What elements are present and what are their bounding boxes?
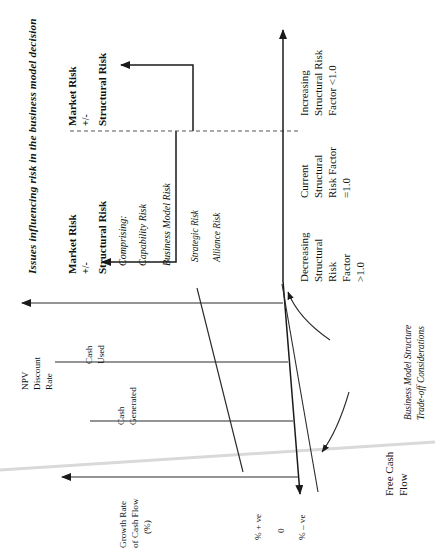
current-line3: Risk Factor xyxy=(326,147,338,198)
tradeoff-arrow-up xyxy=(288,292,330,340)
comprising-label: Comprising: xyxy=(117,215,128,266)
decreasing-line3: Risk xyxy=(326,262,338,282)
tradeoff-annotation-line1: Business Model Structure xyxy=(403,325,413,420)
right-group-structural-risk: Structural Risk xyxy=(96,53,108,126)
increasing-line1: Increasing xyxy=(298,70,310,116)
oblique-line-right xyxy=(282,284,318,492)
tradeoff-annotation-line2: Trade-off Considerations xyxy=(416,326,426,420)
growth-label-line1: Growth Rate xyxy=(118,501,128,548)
current-line1: Current xyxy=(298,164,310,198)
figure-canvas: Issues influencing risk in the business … xyxy=(0,0,435,556)
decreasing-line5: >1.0 xyxy=(354,262,366,282)
left-group-structural-risk: Structural Risk xyxy=(96,201,108,274)
free-cash-flow-axis xyxy=(283,281,300,494)
growth-label-line3: (%) xyxy=(142,520,152,534)
current-line4: =1.0 xyxy=(340,178,352,198)
cash-generated-line2: Generated xyxy=(128,387,138,425)
increasing-line2: Structural Risk xyxy=(312,50,324,116)
npv-label-line2: Discount xyxy=(32,357,42,390)
cash-generated-line1: Cash xyxy=(116,407,126,425)
free-cash-flow-line1: Free Cash xyxy=(383,452,395,496)
cash-used-line2: Used xyxy=(96,345,106,364)
growth-label-line2: of Cash Flow xyxy=(130,498,140,548)
component-alliance-risk: Alliance Risk xyxy=(212,213,222,262)
component-strategic-risk: Strategic Risk xyxy=(190,210,200,262)
current-line2: Structural xyxy=(312,155,324,198)
tick-positive: % + ve xyxy=(253,514,263,540)
npv-label-line3: Rate xyxy=(44,373,54,390)
right-group-market-risk: Market Risk xyxy=(66,66,78,126)
tick-negative: % – ve xyxy=(297,514,307,540)
cash-used-line1: Cash xyxy=(84,346,94,364)
left-group-market-risk: Market Risk xyxy=(66,214,78,274)
component-capability-risk: Capability Risk xyxy=(137,204,148,266)
tradeoff-arrow-down xyxy=(322,392,349,452)
component-business-model-risk: Business Model Risk xyxy=(161,183,172,266)
decreasing-line1: Decreasing xyxy=(298,233,310,282)
decreasing-line4: Factor xyxy=(340,254,352,282)
increasing-line3: Factor <1.0 xyxy=(326,65,338,116)
scan-artifact xyxy=(0,442,435,470)
free-cash-flow-line2: Flow xyxy=(397,473,409,496)
left-group-plus-minus: +/- xyxy=(80,262,91,274)
figure-title: Issues influencing risk in the business … xyxy=(26,12,39,274)
decreasing-line2: Structural xyxy=(312,239,324,282)
tick-zero: 0 xyxy=(276,528,286,533)
npv-label-line1: NPV xyxy=(20,372,30,390)
right-group-plus-minus: +/- xyxy=(80,114,91,126)
bracket-right xyxy=(121,65,193,131)
oblique-line-left xyxy=(197,288,243,472)
